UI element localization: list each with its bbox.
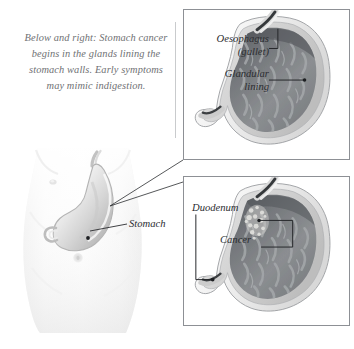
oesophagus-label-line1: Oesophagus bbox=[193, 33, 269, 46]
glandular-label-line1: Glandular bbox=[193, 68, 269, 81]
torso-illustration bbox=[16, 148, 150, 333]
figure-caption: Below and right: Stomach cancer begins i… bbox=[22, 30, 170, 94]
duodenum-leader bbox=[196, 214, 212, 279]
glandular-lining-label: Glandular lining bbox=[193, 68, 269, 93]
stomach-label: Stomach bbox=[129, 218, 165, 229]
glandular-label-line2: lining bbox=[193, 81, 269, 94]
stomach-label-dot bbox=[86, 236, 90, 240]
duodenum-label: Duodenum bbox=[192, 202, 239, 215]
stomach-cancer-svg bbox=[184, 177, 349, 325]
panel-stomach-normal: Oesophagus (gullet) Glandular lining bbox=[183, 9, 350, 160]
duodenum-leader-dot bbox=[211, 278, 215, 282]
panel-stomach-cancer: Duodenum Cancer bbox=[183, 176, 350, 326]
cancer-leader-dot bbox=[257, 219, 261, 223]
oesophagus-label: Oesophagus (gullet) bbox=[193, 33, 269, 58]
glandular-leader-dot bbox=[303, 78, 307, 82]
oesophagus-label-line2: (gullet) bbox=[193, 46, 269, 59]
torso-svg bbox=[16, 148, 150, 333]
caption-divider-rule bbox=[175, 22, 176, 138]
cancer-label: Cancer bbox=[220, 234, 251, 247]
figure-root: Below and right: Stomach cancer begins i… bbox=[0, 0, 354, 349]
